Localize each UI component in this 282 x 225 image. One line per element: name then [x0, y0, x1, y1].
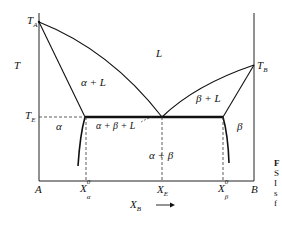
liquidus-beta [162, 65, 254, 117]
region-liquid: L [156, 48, 162, 59]
caption-fragment: F S I s f [274, 158, 280, 208]
label-te: TE [25, 110, 35, 124]
label-x-axis: XB [130, 199, 141, 213]
region-beta-liquid: β + L [196, 93, 221, 104]
tick-x-beta: X0β [218, 183, 228, 197]
region-alpha-liquid: α + L [81, 77, 106, 88]
region-alpha-beta: α + β [149, 150, 173, 161]
tick-x-alpha: X0α [80, 183, 90, 197]
label-tb: TB [257, 60, 267, 74]
label-ta: TA [27, 15, 37, 29]
tick-x-e: XE [157, 184, 168, 198]
ta-point [38, 21, 40, 23]
solidus-alpha [39, 22, 85, 117]
region-beta: β [237, 121, 242, 132]
solidus-beta [223, 65, 254, 117]
label-component-a: A [35, 184, 42, 195]
solvus-beta [223, 117, 229, 163]
label-component-b: B [251, 184, 258, 195]
phase-diagram [0, 0, 282, 225]
region-three-phase: α + β + L [96, 121, 135, 131]
xb-arrow-head [170, 203, 175, 208]
region-alpha: α [56, 121, 62, 132]
label-y-axis: T [14, 60, 20, 71]
solvus-alpha [78, 117, 85, 166]
liquidus-alpha [39, 22, 162, 117]
